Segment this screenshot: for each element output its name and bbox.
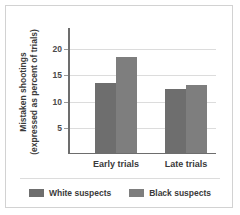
y-tick-mark: [64, 75, 68, 76]
y-tick-mark: [64, 128, 68, 129]
y-axis-title-text: Mistaken shootings (expressed as percent…: [18, 29, 39, 155]
legend-item: White suspects: [29, 188, 111, 198]
x-axis-line: [68, 153, 216, 154]
y-tick-mark: [64, 102, 68, 103]
legend-swatch: [29, 189, 44, 197]
figure-frame: Mistaken shootings (expressed as percent…: [5, 5, 233, 208]
legend-separator: [20, 178, 220, 179]
bar: [186, 85, 207, 153]
plot-area: 5101520 Early trialsLate trials: [68, 28, 216, 154]
y-axis-title-line-1: Mistaken shootings: [18, 29, 29, 155]
legend-label: Black suspects: [149, 188, 211, 198]
bar: [165, 89, 186, 153]
legend-label: White suspects: [49, 188, 111, 198]
legend-swatch: [129, 189, 144, 197]
gridline: [70, 75, 216, 76]
y-tick-label: 15: [53, 70, 62, 80]
y-tick-label: 5: [57, 123, 62, 133]
gridline: [70, 49, 216, 50]
legend: White suspectsBlack suspects: [20, 186, 220, 200]
x-category-label: Late trials: [165, 159, 208, 169]
y-tick-label: 20: [53, 44, 62, 54]
bar: [116, 57, 137, 153]
y-axis-line: [68, 28, 70, 154]
legend-item: Black suspects: [129, 188, 211, 198]
x-category-label: Early trials: [93, 159, 139, 169]
y-axis-title-line-2: (expressed as percent of trials): [28, 29, 39, 155]
bar: [95, 83, 116, 153]
y-axis-title: Mistaken shootings (expressed as percent…: [15, 24, 41, 159]
y-tick-mark: [64, 49, 68, 50]
y-tick-label: 10: [53, 97, 62, 107]
